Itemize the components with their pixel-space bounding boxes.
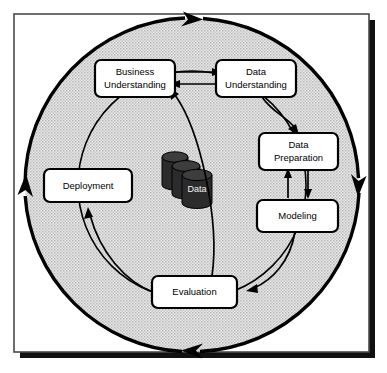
phase-label-evaluation: Evaluation (172, 286, 216, 297)
phase-box-data-understanding[interactable]: Data Understanding (216, 60, 296, 97)
phase-label-data-preparation-line1: Data (288, 139, 309, 150)
phase-label-business-understanding-line1: Business (116, 66, 155, 77)
crisp-dm-diagram-root: Data (0, 0, 387, 373)
phase-label-data-understanding-line2: Understanding (225, 79, 287, 90)
phase-label-data-preparation-line2: Preparation (274, 152, 323, 163)
phase-label-data-understanding-line1: Data (246, 66, 267, 77)
data-cylinder-label: Data (187, 184, 206, 194)
phase-label-business-understanding-line2: Understanding (104, 79, 166, 90)
phase-box-evaluation[interactable]: Evaluation (152, 276, 237, 308)
phase-box-modeling[interactable]: Modeling (257, 200, 338, 232)
phase-label-deployment: Deployment (63, 180, 114, 191)
phase-label-modeling: Modeling (278, 210, 317, 221)
phase-box-business-understanding[interactable]: Business Understanding (95, 60, 175, 97)
crisp-dm-diagram: Data (0, 0, 387, 373)
phase-box-deployment[interactable]: Deployment (44, 169, 132, 202)
phase-box-data-preparation[interactable]: Data Preparation (259, 133, 338, 170)
frame-shadow-right (369, 20, 375, 358)
